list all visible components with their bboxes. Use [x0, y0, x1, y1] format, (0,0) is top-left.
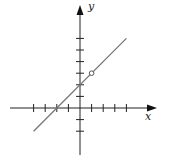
- plot-area: [0, 0, 170, 162]
- open-circle-marker: [89, 71, 94, 76]
- x-axis-label: x: [145, 110, 151, 123]
- y-axis-arrow-icon: [77, 5, 84, 15]
- y-axis-label: y: [88, 0, 94, 13]
- graph: x y: [0, 0, 170, 162]
